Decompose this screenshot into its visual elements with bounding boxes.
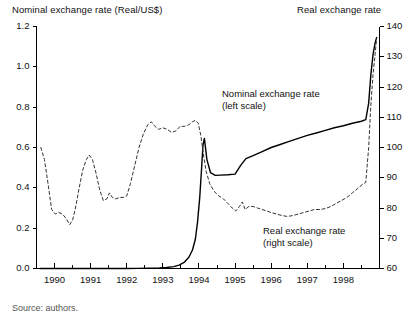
left-axis-tick-label: 0.4	[0, 181, 30, 192]
figure-caption: Source: authors.	[12, 303, 78, 314]
right-axis-tick-label: 100	[387, 141, 403, 152]
annotation-real-series: Real exchange rate (right scale)	[263, 225, 345, 248]
exchange-rate-chart: Nominal exchange rate (Real/US$) Real ex…	[0, 0, 414, 314]
left-axis-tick-label: 0.0	[0, 262, 30, 273]
right-axis-tick-label: 70	[387, 232, 398, 243]
annotation-nominal-line1: Nominal exchange rate	[222, 88, 320, 100]
right-axis-tick-label: 140	[387, 20, 403, 31]
annotation-nominal-line2: (left scale)	[222, 100, 320, 112]
left-axis-tick-label: 0.6	[0, 141, 30, 152]
right-axis-tick-label: 110	[387, 111, 402, 122]
annotation-nominal-series: Nominal exchange rate (left scale)	[222, 88, 320, 111]
left-axis-tick-label: 1.2	[0, 20, 30, 31]
annotation-real-line1: Real exchange rate	[263, 225, 345, 237]
right-axis-tick-label: 130	[387, 50, 403, 61]
right-axis-title: Real exchange rate	[297, 4, 381, 15]
annotation-real-line2: (right scale)	[263, 237, 345, 249]
right-axis-tick-label: 90	[387, 171, 398, 182]
left-axis-tick-label: 1.0	[0, 60, 30, 71]
left-axis-tick-label: 0.2	[0, 222, 30, 233]
x-axis-tick-label: 1998	[319, 274, 367, 285]
series-real-exchange-rate	[41, 39, 377, 225]
right-axis-tick-label: 120	[387, 81, 403, 92]
left-axis-tick-label: 0.8	[0, 101, 30, 112]
left-axis-title: Nominal exchange rate (Real/US$)	[12, 4, 163, 15]
plot-area	[0, 0, 414, 314]
right-axis-tick-label: 60	[387, 262, 398, 273]
right-axis-tick-label: 80	[387, 202, 398, 213]
